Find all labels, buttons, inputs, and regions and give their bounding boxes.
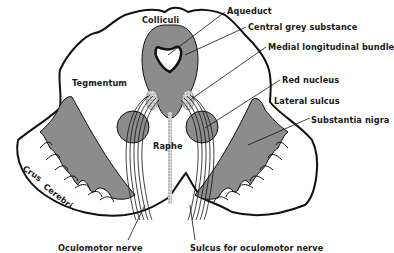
label-central-grey-substance: Central grey substance bbox=[248, 23, 357, 31]
label-substantia-nigra: Substantia nigra bbox=[311, 116, 389, 124]
label-sulcus: sulcus bbox=[310, 97, 340, 105]
label-raphe: Raphe bbox=[153, 142, 183, 150]
mlf-right bbox=[182, 90, 194, 110]
label-colliculi: Colliculi bbox=[142, 16, 179, 24]
label-tegmentum: Tegmentum bbox=[72, 79, 127, 87]
label-oculomotor-nerve: Oculomotor nerve bbox=[58, 244, 143, 252]
label-aqueduct: Aqueduct bbox=[227, 7, 272, 15]
label-sulcus-for-oculomotor-nerve: Sulcus for oculomotor nerve bbox=[190, 244, 323, 252]
raphe bbox=[168, 112, 172, 204]
label-medial-longitudinal-bundle: Medial longitudinal bundle bbox=[268, 43, 394, 51]
label-lateral: Lateral bbox=[274, 97, 307, 105]
mlf-left bbox=[146, 90, 158, 110]
label-red-nucleus: Red nucleus bbox=[282, 76, 339, 84]
